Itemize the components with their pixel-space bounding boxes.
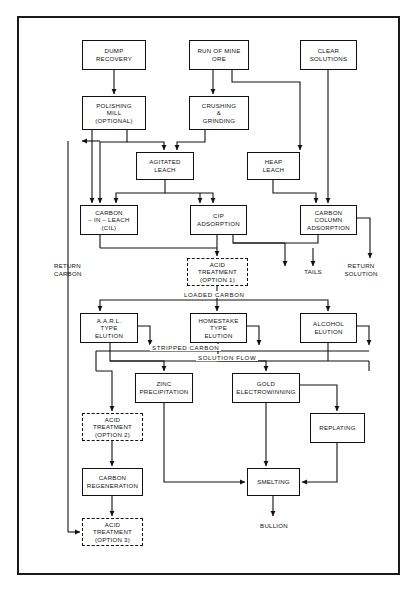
node-carbon-in-leach[interactable]: CARBON – IN – LEACH (CIL)	[80, 205, 138, 235]
label-bullion: BULLION	[252, 522, 296, 530]
node-aarl-type-elution[interactable]: A.A.R.L. TYPE ELUTION	[80, 313, 138, 343]
node-cip-adsorption[interactable]: CIP ADSORPTION	[190, 205, 247, 235]
label-tails: TAILS	[296, 268, 330, 276]
node-clear-solutions[interactable]: CLEAR SOLUTIONS	[300, 40, 357, 70]
node-gold-electrowinning[interactable]: GOLD ELECTROWINNING	[232, 373, 300, 403]
label-stripped-carbon: STRIPPED CARBON	[150, 344, 221, 351]
label-solution-flow: SOLUTION FLOW	[196, 354, 258, 361]
node-homestake-type-elution[interactable]: HOMESTAKE TYPE ELUTION	[190, 313, 247, 343]
node-agitated-leach[interactable]: AGITATED LEACH	[136, 152, 194, 180]
node-smelting[interactable]: SMELTING	[247, 468, 300, 496]
node-acid-treatment-option-3[interactable]: ACID TREATMENT (OPTION 3)	[82, 518, 143, 546]
node-dump-recovery[interactable]: DUMP RECOVERY	[82, 40, 146, 70]
node-carbon-regeneration[interactable]: CARBON REGENERATION	[82, 468, 143, 496]
node-run-of-mine-ore[interactable]: RUN OF MINE ORE	[189, 40, 249, 70]
label-return-solution: RETURN SOLUTION	[338, 262, 384, 277]
node-crushing-grinding[interactable]: CRUSHING & GRINDING	[189, 96, 249, 130]
node-zinc-precipitation[interactable]: ZINC PRECIPITATION	[135, 373, 193, 403]
node-carbon-column-adsorption[interactable]: CARBON COLUMN ADSORPTION	[300, 205, 357, 235]
node-polishing-mill[interactable]: POLISHING MILL (OPTIONAL)	[82, 96, 146, 130]
label-loaded-carbon: LOADED CARBON	[182, 291, 247, 298]
flowchart-page: DUMP RECOVERY RUN OF MINE ORE CLEAR SOLU…	[0, 0, 417, 592]
node-acid-treatment-option-1[interactable]: ACID TREATMENT (OPTION 1)	[187, 258, 248, 286]
node-heap-leach[interactable]: HEAP LEACH	[247, 152, 300, 180]
node-alcohol-elution[interactable]: ALCOHOL ELUTION	[300, 313, 357, 343]
label-return-carbon: RETURN CARBON	[54, 262, 94, 277]
node-replating[interactable]: REPLATING	[310, 413, 365, 443]
node-acid-treatment-option-2[interactable]: ACID TREATMENT (OPTION 2)	[82, 413, 143, 441]
